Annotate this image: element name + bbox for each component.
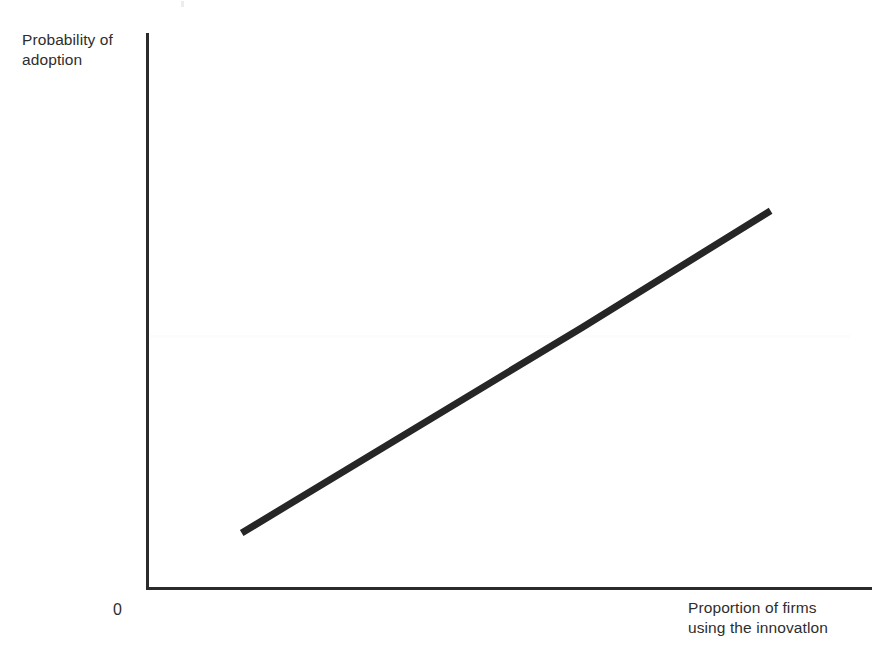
chart-figure: Probability ofadoption Proportion of fir… [0, 0, 884, 667]
plot-area [0, 0, 884, 667]
series-line-probability-of-adoption [242, 211, 771, 533]
